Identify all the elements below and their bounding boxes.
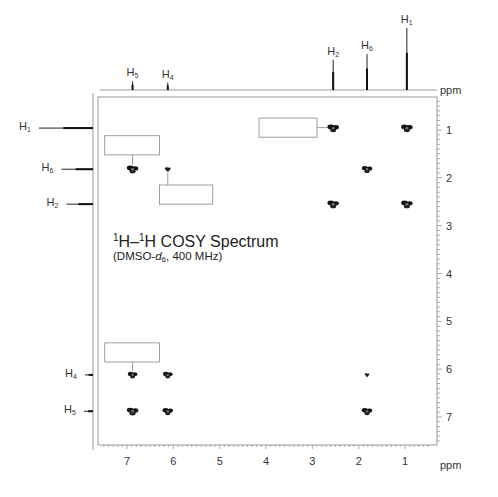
- y-tick-label: 2: [446, 172, 452, 184]
- left-projection-peak-body: [76, 168, 93, 170]
- annotation-box: [105, 136, 160, 155]
- left-peak-label: H6: [42, 162, 54, 174]
- cross-peak: [163, 372, 173, 379]
- x-tick-label: 4: [263, 455, 269, 467]
- y-tick-label: 4: [446, 268, 452, 280]
- chart-title: 1H–1H COSY Spectrum: [113, 232, 279, 251]
- y-tick-label: 6: [446, 363, 452, 375]
- top-projection-peak-body: [406, 53, 408, 90]
- x-tick-label: 3: [309, 455, 315, 467]
- y-tick-label: 5: [446, 315, 452, 327]
- cross-peak: [365, 373, 370, 377]
- top-projection-peak-body: [332, 72, 334, 90]
- annotation-box: [259, 118, 317, 137]
- cross-peak: [327, 124, 338, 132]
- y-tick-label: 3: [446, 220, 452, 232]
- top-peak-label: H6: [361, 40, 373, 52]
- x-tick-label: 6: [170, 455, 176, 467]
- x-tick-label: 1: [402, 455, 408, 467]
- top-axis-unit-label: ppm: [440, 84, 461, 96]
- x-tick-label: 7: [124, 455, 130, 467]
- x-axis-unit-label: ppm: [440, 459, 461, 471]
- left-projection-peak-body: [89, 374, 93, 376]
- left-peak-label: H4: [65, 368, 77, 380]
- left-projection-peak-body: [63, 127, 93, 129]
- left-peak-label: H2: [47, 197, 59, 209]
- cosy-chart: 1H–1H COSY Spectrum (DMSO-d6, 400 MHz) p…: [0, 0, 498, 497]
- y-tick-label: 1: [446, 124, 452, 136]
- left-peak-label: H5: [64, 404, 76, 416]
- chart-subtitle: (DMSO-d6, 400 MHz): [113, 250, 222, 264]
- cross-peak: [401, 124, 412, 132]
- top-peak-label: H5: [127, 67, 139, 79]
- left-projection-peak-body: [78, 203, 93, 205]
- top-projection-peak-body: [167, 86, 169, 90]
- x-tick-label: 5: [217, 455, 223, 467]
- cross-peak: [165, 167, 171, 171]
- cross-peak: [327, 201, 338, 209]
- y-tick-label: 7: [446, 411, 452, 423]
- cross-peak: [128, 372, 138, 379]
- left-projection-peak-body: [88, 410, 93, 412]
- cross-peak: [127, 166, 138, 174]
- top-peak-label: H2: [327, 46, 339, 58]
- cross-peak: [127, 408, 138, 416]
- top-projection-peak-body: [132, 85, 134, 90]
- top-peak-label: H4: [162, 69, 174, 81]
- top-peak-label: H1: [401, 14, 413, 26]
- cross-peak: [163, 408, 173, 415]
- x-tick-label: 2: [356, 455, 362, 467]
- top-projection-peak-body: [366, 68, 368, 90]
- annotation-box: [159, 185, 212, 204]
- cross-peak: [401, 201, 412, 209]
- left-peak-label: H1: [19, 121, 31, 133]
- cross-peak: [362, 166, 372, 173]
- annotation-box: [105, 343, 160, 362]
- cross-peak: [362, 408, 372, 415]
